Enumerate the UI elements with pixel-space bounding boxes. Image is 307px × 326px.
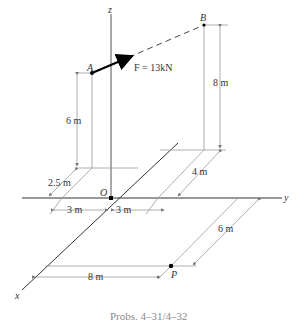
a-y-offset-label: 3 m [67, 204, 83, 215]
a-x-offset-label: 2.5 m [48, 177, 71, 188]
b-x-offset-label: 4 m [192, 166, 208, 177]
force-label: F = 13kN [134, 62, 172, 73]
point-b-label: B [200, 12, 206, 23]
p-x-offset-label: 6 m [218, 223, 234, 234]
point-p-label: P [170, 269, 177, 280]
origin-label: O [100, 187, 107, 198]
a-height-label: 6 m [66, 115, 82, 126]
x-axis-label: x [14, 290, 20, 301]
point-a-label: A [86, 62, 94, 73]
x-axis [22, 143, 178, 290]
y-axis-label: y [283, 192, 289, 203]
statics-diagram: z y x A B O P F = 13kN 6 m 8 m 2.5 m 3 m… [0, 0, 307, 326]
point-p [169, 264, 173, 268]
point-b [202, 23, 205, 26]
p-y-offset-label: 8 m [88, 271, 104, 282]
origin-o [109, 196, 113, 200]
y-dim-ext-right [146, 198, 158, 214]
b-height-label: 8 m [213, 77, 229, 88]
b-y-offset-label: 3 m [116, 204, 132, 215]
figure-caption: Probs. 4–31/4–32 [110, 310, 188, 322]
force-arrow [92, 56, 132, 73]
z-axis-label: z [107, 4, 112, 15]
y-dim-ext-left [50, 198, 62, 214]
